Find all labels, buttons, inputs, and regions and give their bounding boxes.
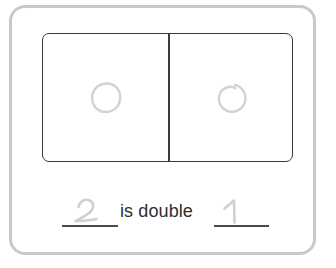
second-blank-rule [214, 225, 269, 227]
sentence-text: is double [120, 200, 193, 222]
handwritten-digit-two [62, 196, 118, 226]
pencil-spiral-circle-icon [211, 77, 253, 119]
box-cell-left [43, 34, 168, 161]
double-box [42, 33, 293, 162]
pencil-circle-icon [85, 77, 127, 119]
box-cell-right [169, 34, 294, 161]
first-blank[interactable]: 2 [62, 196, 118, 227]
handwritten-digit-one [214, 196, 269, 226]
first-blank-rule [62, 225, 118, 227]
worksheet-card: 2 is double 1 [0, 0, 336, 268]
second-blank[interactable]: 1 [214, 196, 269, 227]
sentence-row: 2 is double 1 [0, 196, 336, 238]
